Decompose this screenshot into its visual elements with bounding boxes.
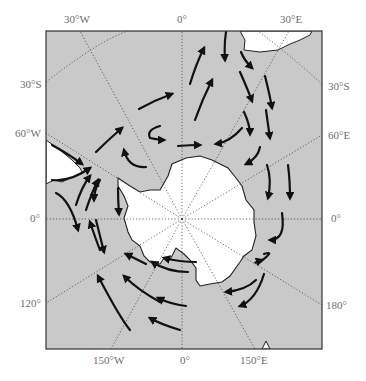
southern-ocean-map (0, 0, 366, 381)
label-left-120: 120° (20, 298, 41, 309)
label-right-60e: 60°E (328, 130, 350, 141)
label-left-0: 0° (30, 213, 40, 224)
label-top-30w: 30°W (64, 14, 90, 25)
label-bottom-150w: 150°W (93, 355, 124, 366)
label-left-30s: 30°S (20, 79, 42, 90)
label-right-30s: 30°S (328, 81, 350, 92)
label-top-0: 0° (177, 14, 187, 25)
label-right-0: 0° (331, 213, 341, 224)
label-bottom-0: 0° (180, 355, 190, 366)
label-bottom-150e: 150°E (240, 355, 268, 366)
label-left-60w: 60°W (15, 128, 41, 139)
label-right-180: 180° (326, 300, 347, 311)
label-top-30e: 30°E (280, 14, 302, 25)
